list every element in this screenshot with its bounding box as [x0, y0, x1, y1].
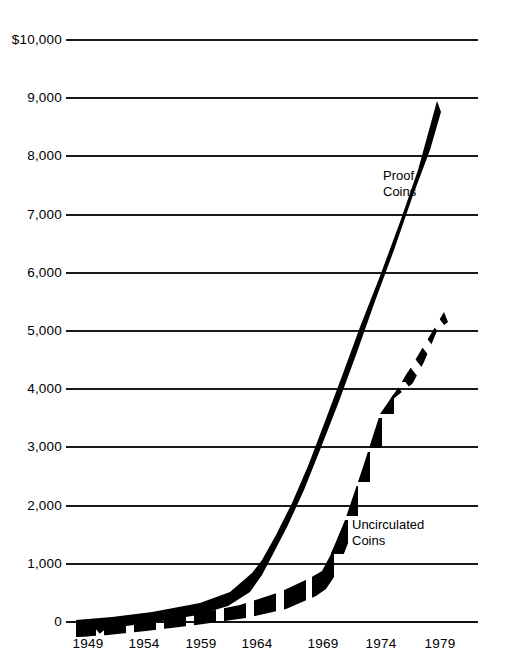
annotation-uncirculated-coins: Uncirculated Coins [352, 517, 424, 548]
xtick-label-1954: 1954 [129, 636, 160, 651]
ytick-label-6000: 6,000 [27, 265, 62, 280]
dash [424, 262, 454, 288]
xtick-label-1969: 1969 [308, 636, 339, 651]
ytick-label-9000: 9,000 [27, 90, 62, 105]
xtick-label-1959: 1959 [186, 636, 217, 651]
ytick-label-1000: 1,000 [27, 556, 62, 571]
xtick-label-1979: 1979 [425, 636, 456, 651]
xtick-label-1964: 1964 [242, 636, 273, 651]
dash [410, 292, 436, 318]
dash [312, 548, 334, 602]
dash [382, 354, 408, 382]
uncirculated-coins-label-line1: Uncirculated [352, 517, 424, 532]
x-axis-labels: 1949 1954 1959 1964 1969 1974 1979 [73, 636, 456, 651]
ytick-label-8000: 8,000 [27, 148, 62, 163]
proof-coins-label-line2: Coins [383, 184, 417, 199]
ytick-label-4000: 4,000 [27, 381, 62, 396]
ytick-label-5000: 5,000 [27, 323, 62, 338]
dash [284, 562, 306, 612]
y-axis-labels: $10,000 9,000 8,000 7,000 6,000 5,000 4,… [12, 32, 62, 629]
dash [356, 418, 382, 448]
xtick-label-1949: 1949 [73, 636, 104, 651]
ytick-label-0: 0 [54, 614, 62, 629]
uncirculated-coins-label-line2: Coins [352, 533, 386, 548]
dash [332, 486, 358, 516]
dash [344, 452, 370, 482]
annotation-proof-coins: Proof Coins [383, 168, 417, 199]
ytick-label-10000: $10,000 [12, 32, 62, 47]
y-axis-ticks [66, 40, 72, 622]
dash [368, 386, 394, 414]
uncirculated-dashes [70, 320, 460, 632]
proof-coins-label-line1: Proof [383, 168, 414, 183]
dash [396, 322, 422, 350]
uncirculated-segments [74, 262, 454, 650]
ytick-label-3000: 3,000 [27, 439, 62, 454]
ytick-label-7000: 7,000 [27, 207, 62, 222]
gridlines [72, 40, 478, 622]
ytick-label-2000: 2,000 [27, 498, 62, 513]
series-uncirculated-coins [60, 262, 480, 660]
xtick-label-1974: 1974 [366, 636, 397, 651]
line-chart: $10,000 9,000 8,000 7,000 6,000 5,000 4,… [0, 0, 505, 672]
dash [322, 520, 348, 554]
chart-container: $10,000 9,000 8,000 7,000 6,000 5,000 4,… [0, 0, 505, 672]
